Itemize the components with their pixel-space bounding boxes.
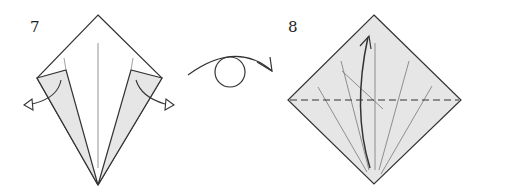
origami-diagram	[0, 0, 516, 190]
step-8-figure	[288, 15, 461, 184]
step-7-figure	[24, 15, 174, 185]
turn-over-icon	[188, 56, 272, 87]
